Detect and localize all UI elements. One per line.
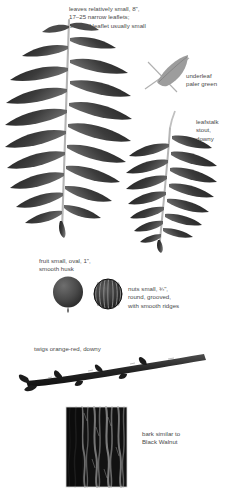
leaflets-left: [126, 144, 169, 243]
fruit-tip: [67, 307, 69, 313]
figure-compound-leaf-lower: [126, 128, 246, 253]
terminal-leaflet: [59, 221, 65, 238]
figure-compound-leaf-upper: [2, 16, 138, 238]
figure-twig: [18, 352, 208, 392]
figure-bark: [66, 407, 127, 487]
caption-underleaf: underleaf paler green: [186, 72, 217, 89]
caption-bark: bark similar to Black Walnut: [142, 430, 180, 447]
caption-nuts: nuts small, ¾", round, grooved, with smo…: [128, 285, 179, 310]
figure-fruit: [52, 276, 86, 314]
leaflets-right: [163, 136, 217, 238]
caption-fruit: fruit small, oval, 1", smooth husk: [39, 257, 91, 274]
terminal-leaflet: [157, 240, 163, 253]
figure-nut: [92, 278, 124, 312]
leaflets-left: [5, 45, 68, 224]
botanical-plate: leaves relatively small, 8", 17–25 narro…: [0, 0, 246, 492]
leaflets-right: [64, 37, 132, 219]
